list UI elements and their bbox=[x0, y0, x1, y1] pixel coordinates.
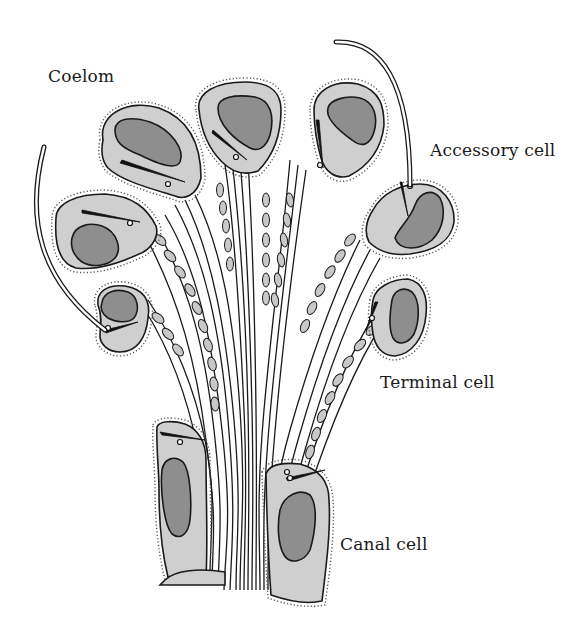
label-coelom: Coelom bbox=[48, 66, 114, 86]
canal-cell-left bbox=[153, 418, 211, 584]
canal-cell-right bbox=[262, 460, 333, 607]
terminal-cell-2 bbox=[196, 78, 285, 177]
terminal-cell-1 bbox=[99, 102, 205, 202]
label-terminal-cell: Terminal cell bbox=[380, 372, 495, 392]
terminal-cell-3 bbox=[310, 79, 388, 181]
label-accessory-cell: Accessory cell bbox=[430, 140, 555, 160]
protonephridium-diagram bbox=[0, 0, 588, 635]
terminal-cell-5 bbox=[95, 282, 153, 356]
label-canal-cell: Canal cell bbox=[340, 534, 428, 554]
accessory-cell bbox=[362, 180, 458, 258]
terminal-cell-6 bbox=[366, 275, 430, 360]
terminal-cell-4 bbox=[52, 190, 161, 273]
